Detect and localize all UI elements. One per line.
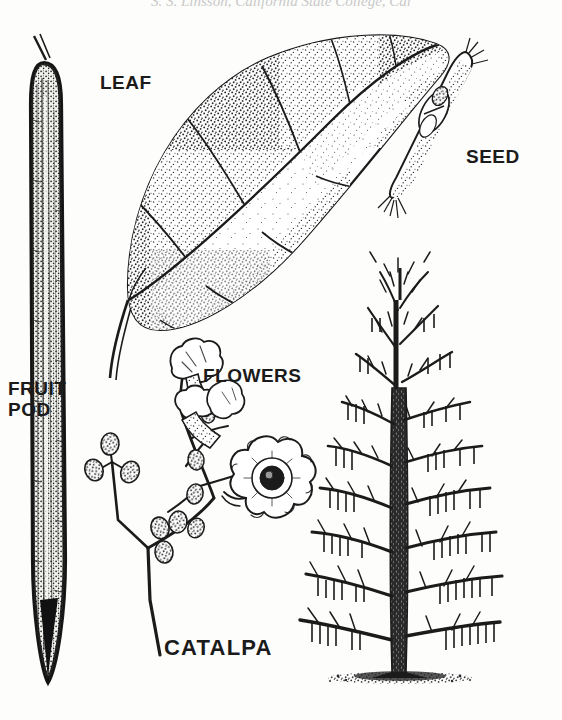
catalpa-illustration-plate (0, 0, 562, 720)
header-credit: S. S. Linsson, California State College,… (0, 0, 562, 10)
fruit-pod-figure (30, 34, 66, 686)
label-seed: SEED (466, 146, 520, 167)
label-flowers: FLOWERS (203, 365, 302, 386)
label-leaf: LEAF (100, 72, 152, 93)
plate-title: CATALPA (164, 636, 273, 661)
label-fruit-pod: FRUIT POD (8, 378, 66, 421)
